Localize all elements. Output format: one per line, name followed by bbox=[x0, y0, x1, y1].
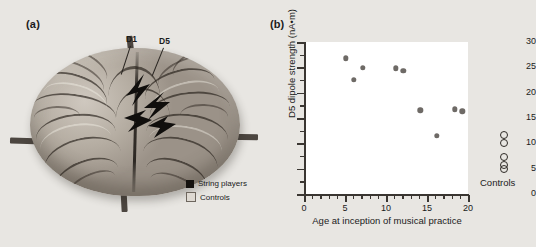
x-tick-major bbox=[427, 195, 429, 202]
y-tick-label: 10 bbox=[506, 137, 536, 147]
x-tick-minor bbox=[435, 195, 436, 199]
data-point-control bbox=[500, 165, 508, 173]
annotation-label-d1: D1 bbox=[126, 34, 137, 44]
y-tick-major bbox=[297, 143, 304, 145]
legend-swatch-open-square bbox=[186, 192, 196, 202]
legend-label-string-players: String players bbox=[198, 178, 247, 190]
x-tick-label: 10 bbox=[374, 203, 398, 213]
x-tick-minor bbox=[361, 195, 362, 199]
controls-group-label: Controls bbox=[480, 177, 515, 188]
x-tick-minor bbox=[394, 195, 395, 199]
x-tick-label: 0 bbox=[292, 203, 316, 213]
legend-label-controls: Controls bbox=[200, 192, 230, 204]
panel-a-label: (a) bbox=[26, 18, 40, 30]
figure-root: (a) bbox=[0, 0, 536, 247]
x-tick-label: 5 bbox=[333, 203, 357, 213]
y-tick-major bbox=[297, 67, 304, 69]
y-tick-minor bbox=[300, 80, 304, 81]
y-tick-major bbox=[297, 93, 304, 95]
y-tick-label: 15 bbox=[506, 112, 536, 122]
x-tick-major bbox=[304, 195, 306, 202]
x-axis-title: Age at inception of musical practice bbox=[282, 215, 492, 226]
x-tick-major bbox=[468, 195, 470, 202]
y-tick-major bbox=[297, 42, 304, 44]
x-tick-minor bbox=[312, 195, 313, 199]
plot-area bbox=[304, 42, 468, 194]
data-point-control bbox=[500, 131, 508, 139]
x-tick-minor bbox=[329, 195, 330, 199]
x-tick-minor bbox=[402, 195, 403, 199]
y-tick-major bbox=[297, 169, 304, 171]
y-tick-minor bbox=[300, 156, 304, 157]
y-tick-minor bbox=[300, 181, 304, 182]
y-tick-label: 20 bbox=[506, 87, 536, 97]
y-tick-major bbox=[297, 118, 304, 120]
panel-a-legend: String players Controls bbox=[186, 178, 247, 205]
y-tick-label: 25 bbox=[506, 61, 536, 71]
x-tick-minor bbox=[370, 195, 371, 199]
panel-b-label: (b) bbox=[270, 18, 284, 30]
x-tick-minor bbox=[460, 195, 461, 199]
x-tick-major bbox=[386, 195, 388, 202]
x-tick-minor bbox=[419, 195, 420, 199]
y-tick-label: 30 bbox=[506, 36, 536, 46]
x-tick-label: 20 bbox=[456, 203, 480, 213]
x-tick-minor bbox=[337, 195, 338, 199]
panel-a: (a) bbox=[0, 0, 264, 247]
legend-item-string-players: String players bbox=[186, 178, 247, 190]
y-tick-label: 0 bbox=[506, 188, 536, 198]
data-point-control bbox=[500, 153, 508, 161]
x-tick-minor bbox=[443, 195, 444, 199]
y-tick-minor bbox=[300, 131, 304, 132]
y-tick-minor bbox=[300, 55, 304, 56]
x-tick-label: 15 bbox=[415, 203, 439, 213]
y-axis-title: D5 dipole strength (nA•m) bbox=[286, 0, 297, 139]
panel-b: (b) 051015202530 05101520 D5 dipole stre… bbox=[264, 0, 536, 247]
data-point-control bbox=[500, 139, 508, 147]
x-tick-minor bbox=[353, 195, 354, 199]
y-axis-line bbox=[304, 42, 306, 195]
y-tick-major bbox=[297, 194, 304, 196]
y-tick-label: 5 bbox=[506, 163, 536, 173]
x-tick-major bbox=[345, 195, 347, 202]
y-tick-minor bbox=[300, 105, 304, 106]
x-tick-minor bbox=[411, 195, 412, 199]
x-tick-minor bbox=[452, 195, 453, 199]
legend-item-controls: Controls bbox=[186, 192, 247, 204]
dipole-arrows bbox=[104, 66, 224, 146]
legend-swatch-filled-square bbox=[186, 180, 194, 188]
x-tick-minor bbox=[320, 195, 321, 199]
x-tick-minor bbox=[378, 195, 379, 199]
annotation-label-d5: D5 bbox=[159, 36, 170, 46]
